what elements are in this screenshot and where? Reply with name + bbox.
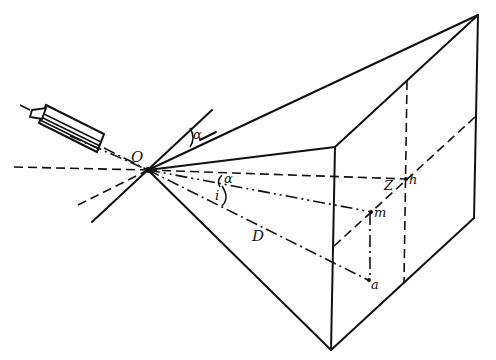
label-m: m xyxy=(374,205,386,220)
label-a: a xyxy=(371,277,379,292)
label-alpha-lower: α xyxy=(224,171,233,186)
point-m xyxy=(369,210,373,214)
diagonal-dash-screen xyxy=(333,117,475,247)
label-i: i xyxy=(215,188,219,203)
label-distance-d: D xyxy=(251,227,264,245)
label-z: Z xyxy=(383,178,394,193)
label-alpha-upper: α xyxy=(193,127,202,142)
diagram-canvas: O α α i D h Z m a xyxy=(0,0,496,360)
label-h: h xyxy=(409,172,417,187)
screen-box xyxy=(331,15,478,350)
origin-point xyxy=(145,167,151,173)
angle-i-arc xyxy=(222,186,226,206)
horizontal-left-dash xyxy=(14,167,148,170)
point-h xyxy=(404,177,408,181)
vertical-dash-screen xyxy=(404,81,407,283)
label-origin: O xyxy=(131,148,143,166)
lower-left-dash xyxy=(78,170,148,205)
projection-pyramid xyxy=(148,15,478,350)
angle-alpha-lower-arc xyxy=(218,175,222,187)
optics-diagram: O α α i D h Z m a xyxy=(0,0,496,360)
